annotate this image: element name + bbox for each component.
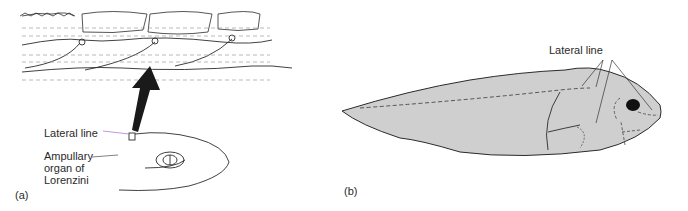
shark-head — [119, 133, 229, 191]
lateral-line-label-b: Lateral line — [549, 44, 603, 56]
ampullary-organ-label: Ampullary organ of Lorenzini — [44, 150, 93, 186]
fish-side-view-illustration — [320, 0, 688, 211]
lateral-line-canal — [22, 35, 292, 72]
lateral-line-label-a: Lateral line — [44, 127, 98, 139]
fish-body — [342, 68, 661, 156]
panel-a-tag: (a) — [15, 189, 28, 201]
dermal-scales — [20, 12, 260, 35]
panel-b: Lateral line (b) — [320, 0, 688, 211]
panel-b-tag: (b) — [344, 185, 357, 197]
panel-a: Lateral line Ampullary organ of Lorenzin… — [0, 0, 300, 211]
fish-eye — [626, 99, 640, 111]
magnify-arrow — [132, 66, 160, 132]
